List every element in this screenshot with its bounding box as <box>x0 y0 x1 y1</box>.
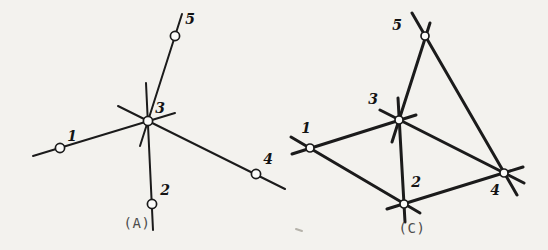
node-A-2-label: 2 <box>159 182 170 198</box>
node-C-5-label: 5 <box>392 17 402 33</box>
node-A-5-label: 5 <box>185 11 195 27</box>
node-A-3-circle <box>143 116 152 125</box>
figure-C-caption: (C) <box>399 220 426 236</box>
node-C-5-circle <box>421 32 429 40</box>
edge-1-3 <box>33 113 175 156</box>
scanned-figure-page: 12345(A)12345(C) <box>0 0 548 250</box>
figure-A-caption: (A) <box>124 215 151 231</box>
figure-A: 12345(A) <box>33 11 285 231</box>
node-C-2-circle <box>400 200 408 208</box>
node-C-3-label: 3 <box>368 91 378 107</box>
node-A-4-circle <box>251 169 260 178</box>
node-A-1-label: 1 <box>67 128 77 144</box>
node-C-4-circle <box>500 169 508 177</box>
node-C-1-circle <box>306 144 314 152</box>
graph-figures-canvas: 12345(A)12345(C) <box>0 0 548 250</box>
node-C-4-label: 4 <box>490 182 500 198</box>
node-C-2-label: 2 <box>410 174 421 190</box>
node-A-5-circle <box>170 31 179 40</box>
node-A-2-circle <box>147 199 156 208</box>
node-A-4-label: 4 <box>263 151 273 167</box>
scan-artifact-mark <box>296 229 302 231</box>
node-A-3-label: 3 <box>155 100 165 116</box>
node-C-1-label: 1 <box>301 120 311 136</box>
node-C-3-circle <box>395 116 403 124</box>
node-A-1-circle <box>55 143 64 152</box>
figure-C: 12345(C) <box>291 13 524 236</box>
edge-5-4 <box>412 13 517 195</box>
